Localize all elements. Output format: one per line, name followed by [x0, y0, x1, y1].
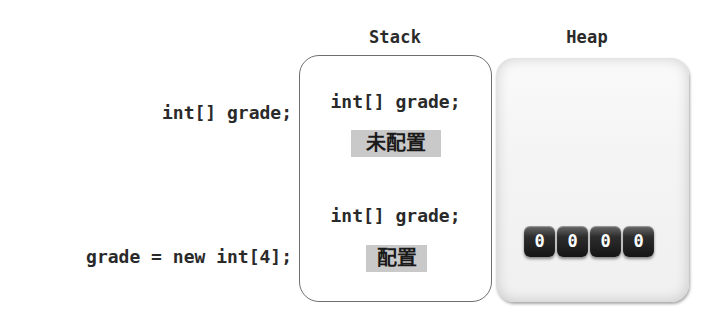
heap-title: Heap — [527, 27, 647, 47]
heap-array: 0 0 0 0 — [524, 226, 654, 257]
stack-code-declared: int[] grade; — [300, 91, 491, 112]
heap-box: 0 0 0 0 — [496, 58, 689, 302]
stack-title: Stack — [335, 27, 455, 47]
array-cell: 0 — [557, 226, 588, 257]
statement-declare: int[] grade; — [162, 102, 292, 123]
array-cell: 0 — [590, 226, 621, 257]
status-badge-unallocated: 未配置 — [351, 130, 441, 157]
stack-code-allocated: int[] grade; — [300, 205, 491, 226]
array-cell: 0 — [524, 226, 555, 257]
statement-allocate: grade = new int[4]; — [86, 246, 292, 267]
stack-box: int[] grade; 未配置 int[] grade; 配置 — [299, 55, 492, 302]
array-cell: 0 — [623, 226, 654, 257]
status-badge-allocated: 配置 — [366, 245, 427, 272]
